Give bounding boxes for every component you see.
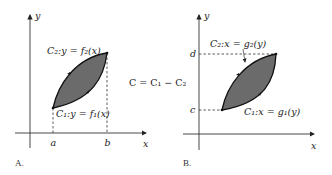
panel-b-tick-c: c <box>190 104 196 115</box>
panel-a-upper-curve-label: C₂:y = f₂(x) <box>47 45 101 56</box>
panel-a-y-label: y <box>34 10 41 21</box>
panel-a-x-label: x <box>143 138 149 149</box>
panel-b-tick-d: d <box>190 48 196 59</box>
panel-a-tick-b: b <box>105 137 111 148</box>
panel-b-caption: B. <box>183 158 191 168</box>
panel-a-tick-a: a <box>51 137 57 148</box>
curve-equation-label: C = C₁ − C₂ <box>129 77 187 88</box>
green-theorem-regions-diagram: y x a b C₂:y = f₂(x) C₁:y = f₁(x) A. C =… <box>0 0 332 175</box>
panel-b-leader-arrow-icon <box>243 49 245 62</box>
panel-a-caption: A. <box>15 158 24 168</box>
panel-b-upper-arrow-icon <box>236 73 240 76</box>
panel-a-lower-curve-label: C₁:y = f₁(x) <box>56 108 110 119</box>
panel-b-y-label: y <box>203 10 210 21</box>
panel-b: y x d c C₂:x = g₂(y) C₁:x = g₁(y) B. <box>183 10 317 168</box>
panel-b-x-label: x <box>311 140 317 151</box>
panel-a-region <box>53 53 107 108</box>
panel-b-upper-curve-label: C₂:x = g₂(y) <box>210 38 267 49</box>
panel-a-upper-arrow-icon <box>67 72 71 75</box>
panel-b-lower-curve-label: C₁:x = g₁(y) <box>244 106 301 117</box>
panel-a: y x a b C₂:y = f₂(x) C₁:y = f₁(x) A. <box>15 10 149 168</box>
panel-b-region <box>222 54 276 110</box>
